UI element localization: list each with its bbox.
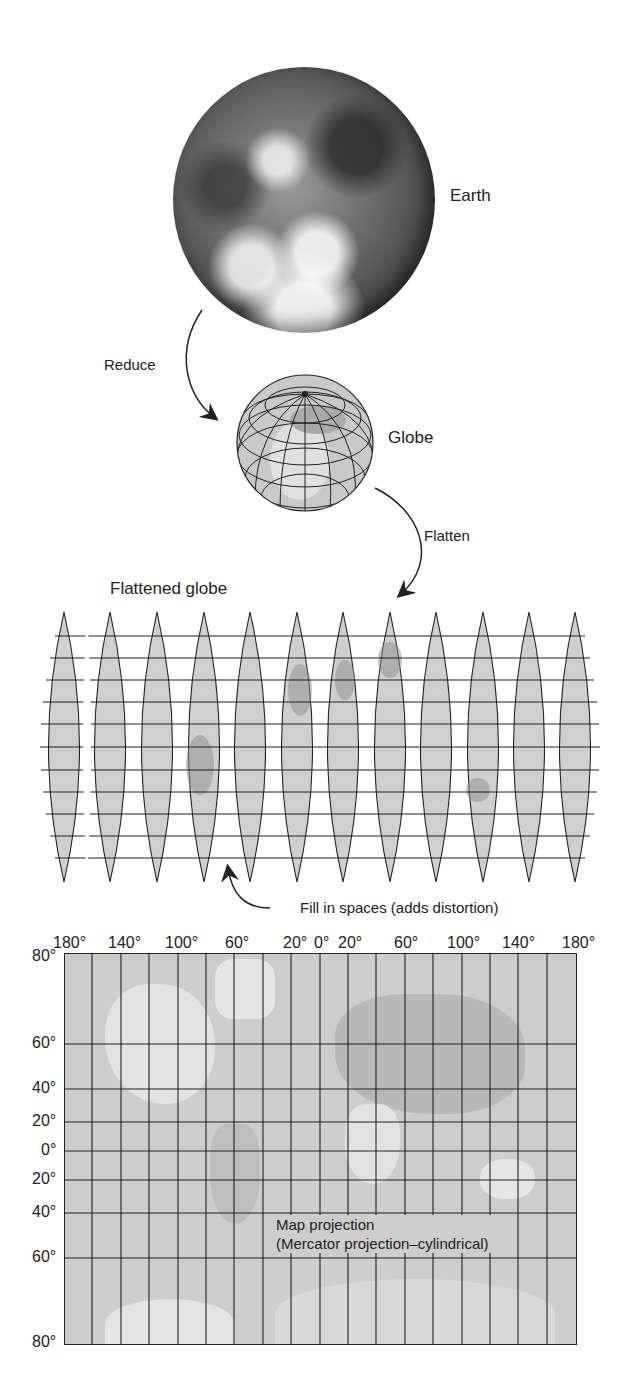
flattened-globe-label: Flattened globe bbox=[110, 579, 227, 599]
lat-label: 80° bbox=[32, 1333, 56, 1351]
lon-label: 100° bbox=[165, 934, 198, 952]
lat-label: 60° bbox=[32, 1034, 56, 1052]
lon-label: 20° bbox=[338, 934, 362, 952]
fill-spaces-label: Fill in spaces (adds distortion) bbox=[300, 899, 498, 916]
lon-label: 100° bbox=[447, 934, 480, 952]
lat-label: 40° bbox=[32, 1203, 56, 1221]
lon-label: 180° bbox=[562, 934, 595, 952]
map-caption: Map projection (Mercator projection–cyli… bbox=[274, 1215, 491, 1253]
globe-label: Globe bbox=[388, 428, 433, 448]
lat-label: 0° bbox=[41, 1141, 56, 1159]
lon-label: 140° bbox=[502, 934, 535, 952]
lat-label: 40° bbox=[32, 1079, 56, 1097]
lon-label: 60° bbox=[225, 934, 249, 952]
reduce-arrow bbox=[186, 310, 215, 418]
reduce-label: Reduce bbox=[104, 356, 156, 373]
lon-label: 20° bbox=[283, 934, 307, 952]
lat-label: 60° bbox=[32, 1248, 56, 1266]
diagram-graphics bbox=[0, 0, 640, 920]
map-caption-line1: Map projection bbox=[276, 1215, 489, 1234]
mercator-map bbox=[64, 953, 577, 1345]
lat-label: 80° bbox=[32, 947, 56, 965]
lon-label: 140° bbox=[108, 934, 141, 952]
flatten-arrow bbox=[375, 488, 422, 595]
lon-label: 180° bbox=[53, 934, 86, 952]
globe bbox=[236, 375, 373, 522]
lon-label: 0° bbox=[314, 934, 329, 952]
lat-label: 20° bbox=[32, 1112, 56, 1130]
lat-label: 20° bbox=[32, 1170, 56, 1188]
map-caption-line2: (Mercator projection–cylindrical) bbox=[276, 1234, 489, 1253]
flatten-label: Flatten bbox=[424, 527, 470, 544]
lon-label: 60° bbox=[394, 934, 418, 952]
